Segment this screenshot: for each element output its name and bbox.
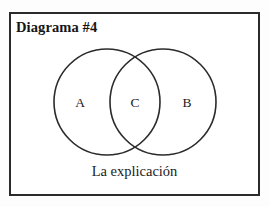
- figure-root: Diagrama #4 A C B La explicación: [0, 0, 270, 207]
- venn-label-b: B: [175, 95, 199, 111]
- figure-caption: La explicación: [9, 163, 260, 180]
- venn-label-a: A: [68, 95, 92, 111]
- venn-label-c: C: [123, 95, 147, 111]
- page-title: Diagrama #4: [16, 19, 97, 36]
